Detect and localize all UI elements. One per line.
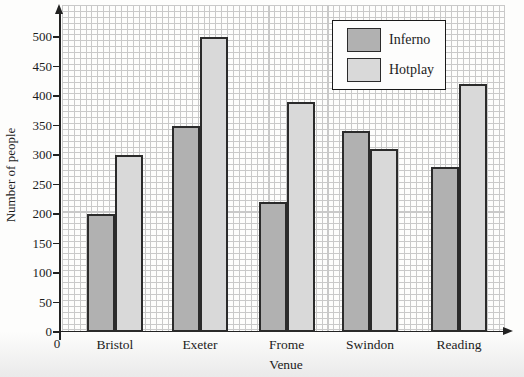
- y-tick-label-350: 350: [18, 118, 52, 134]
- y-tick-label-200: 200: [18, 206, 52, 222]
- bar-inferno-bristol: [87, 214, 115, 332]
- bar-hotplay-exeter: [200, 37, 228, 332]
- legend-label-inferno: Inferno: [389, 30, 430, 50]
- y-axis-arrow-icon: [55, 4, 63, 14]
- bar-hotplay-frome: [287, 102, 315, 332]
- y-tick-label-150: 150: [18, 236, 52, 252]
- bar-inferno-frome: [259, 202, 287, 332]
- y-tick-450: [53, 66, 60, 67]
- x-axis-arrow-icon: [503, 327, 513, 335]
- y-tick-100: [53, 272, 60, 273]
- bar-chart-figure: 050100150200250300350400450500 BristolEx…: [0, 0, 524, 377]
- y-tick-label-250: 250: [18, 177, 52, 193]
- legend-swatch-inferno: [347, 28, 381, 52]
- y-tick-250: [53, 184, 60, 185]
- y-tick-label-500: 500: [18, 29, 52, 45]
- x-label-bristol: Bristol: [70, 337, 160, 353]
- y-tick-50: [53, 302, 60, 303]
- x-label-reading: Reading: [414, 337, 504, 353]
- y-tick-label-400: 400: [18, 88, 52, 104]
- y-tick-200: [53, 213, 60, 214]
- bar-hotplay-reading: [459, 84, 487, 332]
- x-label-swindon: Swindon: [325, 337, 415, 353]
- x-label-frome: Frome: [242, 337, 332, 353]
- x-label-exeter: Exeter: [155, 337, 245, 353]
- y-tick-150: [53, 243, 60, 244]
- bar-inferno-swindon: [342, 131, 370, 332]
- x-origin-label: 0: [50, 336, 64, 352]
- y-tick-label-50: 50: [18, 295, 52, 311]
- y-tick-400: [53, 95, 60, 96]
- y-axis-title: Number of people: [3, 120, 19, 230]
- x-axis-title: Venue: [246, 357, 326, 373]
- bar-inferno-reading: [431, 167, 459, 332]
- y-tick-0: [53, 331, 60, 332]
- bar-inferno-exeter: [172, 126, 200, 333]
- y-tick-500: [53, 36, 60, 37]
- y-axis-line: [59, 12, 61, 340]
- legend-swatch-hotplay: [347, 58, 381, 82]
- y-tick-label-450: 450: [18, 59, 52, 75]
- bar-hotplay-swindon: [370, 149, 398, 332]
- y-tick-350: [53, 125, 60, 126]
- y-tick-label-0: 0: [18, 324, 52, 340]
- legend-box: Inferno Hotplay: [332, 20, 446, 90]
- y-tick-label-300: 300: [18, 147, 52, 163]
- bar-hotplay-bristol: [115, 155, 143, 332]
- y-tick-label-100: 100: [18, 265, 52, 281]
- y-tick-300: [53, 154, 60, 155]
- legend-label-hotplay: Hotplay: [389, 60, 434, 80]
